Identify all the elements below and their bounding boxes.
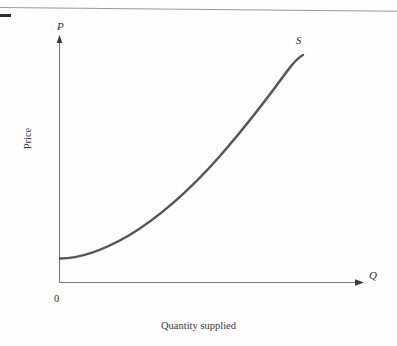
- y-axis-arrowhead: [57, 35, 63, 43]
- y-axis-variable-label: P: [57, 20, 64, 32]
- x-axis-caption: Quantity supplied: [0, 320, 397, 331]
- origin-label: 0: [54, 293, 59, 304]
- y-axis: [57, 35, 63, 283]
- supply-curve-chart: [0, 0, 397, 346]
- x-axis-variable-label: Q: [369, 269, 377, 281]
- x-axis-arrowhead: [355, 279, 364, 285]
- supply-curve-label: S: [296, 35, 301, 46]
- supply-curve-line: [60, 55, 303, 259]
- y-axis-caption: Price: [22, 119, 33, 159]
- x-axis: [59, 279, 364, 285]
- figure-page: P Q S 0 Price Quantity supplied: [0, 0, 397, 346]
